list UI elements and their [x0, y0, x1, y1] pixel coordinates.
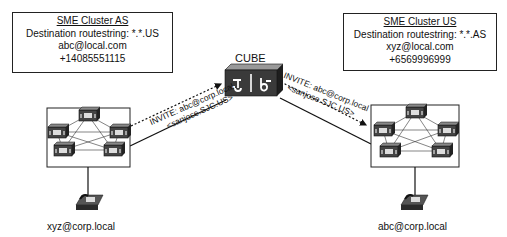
left-cluster-network: [47, 107, 131, 196]
right-cluster-network: [371, 104, 459, 196]
topology-diagram: [0, 0, 507, 237]
ip-phone-icon-left: [76, 195, 103, 210]
phone-right-label: abc@corp.local: [378, 221, 447, 232]
phone-left-label: xyz@corp.local: [47, 221, 115, 232]
ip-phone-icon-right: [401, 195, 428, 210]
cube-label: CUBE: [235, 52, 266, 64]
